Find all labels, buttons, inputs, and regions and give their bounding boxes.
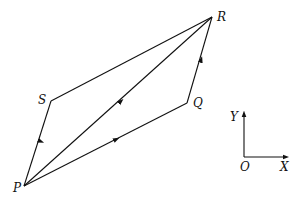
arrow-qr-icon xyxy=(201,60,202,63)
segment-sr xyxy=(51,17,212,101)
label-s: S xyxy=(38,93,46,107)
label-r: R xyxy=(216,10,226,24)
axis-label-x: X xyxy=(279,160,289,174)
vector-diagram: P S R Q Y O X xyxy=(0,0,303,200)
arrow-ps-icon xyxy=(39,141,42,142)
segment-qr xyxy=(187,17,212,103)
arrow-pr-icon xyxy=(119,101,121,103)
label-q: Q xyxy=(193,96,203,110)
segment-pr xyxy=(24,17,212,186)
axis-label-y: Y xyxy=(230,110,239,124)
axis-label-o: O xyxy=(240,160,250,174)
segment-pq xyxy=(24,103,187,186)
label-p: P xyxy=(12,181,22,195)
